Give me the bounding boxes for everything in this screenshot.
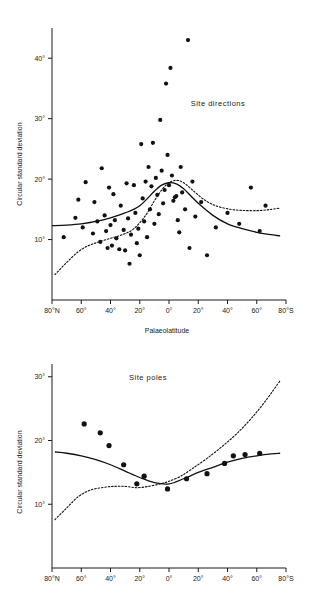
y-tick-label: 20° xyxy=(34,176,45,183)
data-point xyxy=(84,180,88,184)
data-point xyxy=(126,216,130,220)
x-tick-label: 40° xyxy=(222,307,233,314)
chart-top-svg: 80°N60°40°20°0°20°40°60°80°S10°20°30°40°… xyxy=(0,0,321,350)
data-point xyxy=(149,184,153,188)
x-tick-label: 60° xyxy=(76,307,87,314)
data-point xyxy=(231,453,236,458)
data-point xyxy=(133,211,137,215)
data-point xyxy=(152,222,156,226)
figure-container: 80°N60°40°20°0°20°40°60°80°S10°20°30°40°… xyxy=(0,0,321,602)
x-tick-label: 80°N xyxy=(44,575,60,582)
trend-curve-dotted-bottom xyxy=(55,381,280,520)
data-point xyxy=(176,218,180,222)
y-tick-label: 30° xyxy=(34,373,45,380)
x-tick-label: 40° xyxy=(105,307,116,314)
data-point xyxy=(170,173,174,177)
data-point xyxy=(92,200,96,204)
data-point xyxy=(134,481,139,486)
data-point xyxy=(105,246,109,250)
data-point xyxy=(82,421,87,426)
panel-title-bottom: Site poles xyxy=(129,373,167,382)
data-point xyxy=(164,82,168,86)
data-point xyxy=(145,235,149,239)
data-point xyxy=(136,227,140,231)
data-point xyxy=(135,241,139,245)
y-axis-title-top: Circular standard deviation xyxy=(16,122,23,205)
data-point xyxy=(186,38,190,42)
data-point xyxy=(190,179,194,183)
x-tick-label: 40° xyxy=(222,575,233,582)
x-tick-label: 20° xyxy=(193,575,204,582)
chart-site-poles: 80°N60°40°20°0°20°40°60°80°S10°20°30° Si… xyxy=(0,350,321,602)
data-point xyxy=(110,244,114,248)
x-tick-label: 40° xyxy=(105,575,116,582)
y-tick-label: 30° xyxy=(34,115,45,122)
data-point xyxy=(111,192,115,196)
data-point xyxy=(76,198,80,202)
x-tick-label: 20° xyxy=(134,575,145,582)
x-tick-label: 60° xyxy=(251,307,262,314)
chart-site-directions: 80°N60°40°20°0°20°40°60°80°S10°20°30°40°… xyxy=(0,0,321,350)
data-point xyxy=(108,223,112,227)
data-point xyxy=(132,183,136,187)
data-point xyxy=(113,218,117,222)
data-point xyxy=(237,222,241,226)
axis-ticks-bottom: 80°N60°40°20°0°20°40°60°80°S10°20°30° xyxy=(34,373,294,582)
data-point xyxy=(141,196,145,200)
x-axis-title-top: Palaeolatitude xyxy=(145,327,189,334)
data-point xyxy=(81,225,85,229)
data-point xyxy=(168,66,172,70)
data-point xyxy=(124,181,128,185)
data-point xyxy=(107,185,111,189)
data-point xyxy=(193,214,197,218)
data-point xyxy=(151,141,155,145)
data-point xyxy=(91,231,95,235)
data-point xyxy=(204,471,209,476)
data-point xyxy=(139,142,143,146)
trend-curve-solid-bottom xyxy=(55,452,280,484)
y-axis-title-bottom: Circular standard deviation xyxy=(16,430,23,513)
data-point xyxy=(62,235,66,239)
data-point xyxy=(187,246,191,250)
data-point xyxy=(146,165,150,169)
data-point xyxy=(199,200,203,204)
data-points-bottom xyxy=(82,421,263,491)
data-point xyxy=(127,262,131,266)
data-point xyxy=(214,225,218,229)
data-point xyxy=(171,199,175,203)
x-tick-label: 80°S xyxy=(278,307,294,314)
data-point xyxy=(104,229,108,233)
data-point xyxy=(103,213,107,217)
y-tick-label: 20° xyxy=(34,437,45,444)
data-point xyxy=(119,204,123,208)
data-point xyxy=(225,211,229,215)
data-point xyxy=(98,430,103,435)
data-point xyxy=(249,185,253,189)
data-point xyxy=(177,230,181,234)
data-point xyxy=(205,253,209,257)
data-point xyxy=(117,247,121,251)
y-tick-label: 10° xyxy=(34,501,45,508)
data-point xyxy=(157,212,161,216)
data-point xyxy=(158,118,162,122)
x-tick-label: 20° xyxy=(134,307,145,314)
y-tick-label: 40° xyxy=(34,55,45,62)
x-tick-label: 80°S xyxy=(278,575,294,582)
data-point xyxy=(122,228,126,232)
data-points-top xyxy=(62,38,268,266)
data-point xyxy=(106,443,111,448)
trend-curve-dotted-top xyxy=(55,180,280,274)
data-point xyxy=(183,207,187,211)
y-tick-label: 10° xyxy=(34,236,45,243)
data-point xyxy=(121,462,126,467)
data-point xyxy=(180,190,184,194)
data-point xyxy=(154,176,158,180)
data-point xyxy=(165,486,170,491)
x-tick-label: 80°N xyxy=(44,307,60,314)
x-tick-label: 60° xyxy=(251,575,262,582)
data-point xyxy=(138,253,142,257)
data-point xyxy=(100,166,104,170)
x-tick-label: 20° xyxy=(193,307,204,314)
panel-title-top: Site directions xyxy=(191,99,246,108)
data-point xyxy=(160,169,164,173)
